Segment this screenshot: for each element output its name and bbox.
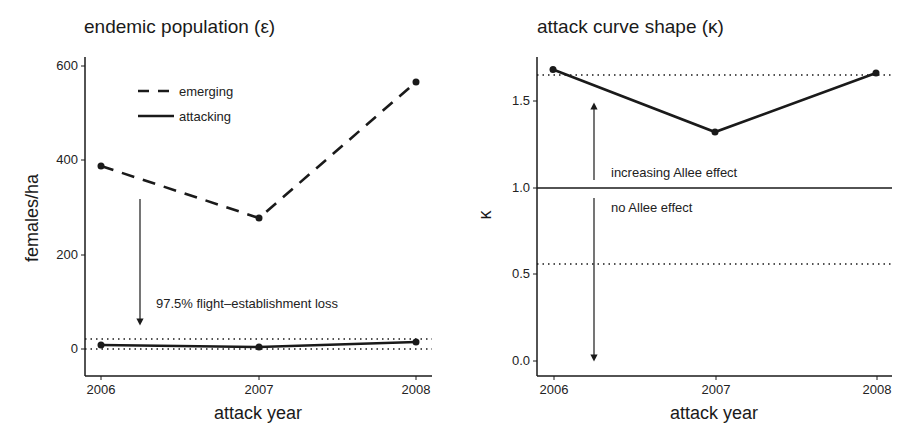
loss-annotation: 97.5% flight–establishment loss [156, 296, 339, 311]
figure: endemic population (ε) 600 400 200 0 200… [0, 0, 916, 442]
left-xtick-2006: 2006 [87, 382, 116, 397]
left-y-axis-label: females/ha [22, 173, 42, 262]
series-kappa [553, 70, 876, 133]
point-emerging-2007 [256, 215, 263, 222]
left-xtick-2008: 2008 [402, 382, 431, 397]
right-chart-title: attack curve shape (κ) [537, 16, 724, 37]
left-panel: endemic population (ε) 600 400 200 0 200… [22, 16, 432, 423]
point-kappa-2008 [873, 70, 880, 77]
right-ytick-0-0: 0.0 [512, 353, 530, 368]
left-chart-title: endemic population (ε) [84, 16, 275, 37]
point-attacking-2007 [256, 344, 263, 351]
right-xtick-2008: 2008 [863, 382, 892, 397]
right-xtick-2006: 2006 [540, 382, 569, 397]
point-emerging-2008 [413, 79, 420, 86]
left-xtick-2007: 2007 [245, 382, 274, 397]
increasing-allee-annotation: increasing Allee effect [611, 165, 738, 180]
right-ytick-1-0: 1.0 [512, 180, 530, 195]
right-x-axis-label: attack year [670, 403, 758, 423]
series-emerging [101, 82, 416, 218]
legend-attacking: attacking [179, 109, 231, 124]
left-ytick-600: 600 [56, 58, 78, 73]
right-ytick-0-5: 0.5 [512, 266, 530, 281]
left-ytick-0: 0 [71, 341, 78, 356]
right-panel: attack curve shape (κ) 1.5 1.0 0.5 0.0 2… [475, 16, 892, 423]
left-x-axis-label: attack year [214, 403, 302, 423]
no-allee-annotation: no Allee effect [611, 200, 693, 215]
left-legend: emerging attacking [138, 84, 233, 124]
right-xtick-2007: 2007 [702, 382, 731, 397]
point-attacking-2008 [413, 339, 420, 346]
point-emerging-2006 [98, 163, 105, 170]
legend-emerging: emerging [179, 84, 233, 99]
left-ytick-200: 200 [56, 247, 78, 262]
right-ytick-1-5: 1.5 [512, 93, 530, 108]
right-x-ticks: 2006 2007 2008 [540, 376, 892, 397]
point-kappa-2007 [712, 129, 719, 136]
left-x-ticks: 2006 2007 2008 [87, 376, 431, 397]
point-attacking-2006 [98, 342, 105, 349]
right-y-axis-label: κ [475, 210, 495, 220]
point-kappa-2006 [550, 66, 557, 73]
left-y-ticks: 600 400 200 0 [56, 58, 85, 356]
right-y-ticks: 1.5 1.0 0.5 0.0 [512, 93, 537, 368]
left-ytick-400: 400 [56, 152, 78, 167]
